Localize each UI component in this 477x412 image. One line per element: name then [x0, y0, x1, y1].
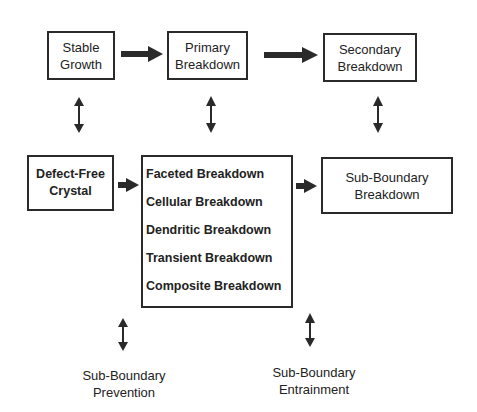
node-label-line: Stable	[63, 39, 100, 56]
double-arrow-prevention	[118, 318, 128, 351]
breakdown-type-transient: Transient Breakdown	[146, 250, 272, 267]
node-primary-breakdown: Primary Breakdown	[167, 31, 248, 80]
node-label-line: Crystal	[49, 183, 91, 200]
node-label-line: Sub-Boundary	[345, 169, 428, 186]
double-arrow-secondary-subboundary	[373, 96, 383, 133]
node-label-line: Breakdown	[175, 56, 240, 73]
node-label-line: Prevention	[68, 384, 180, 401]
node-label-line: Breakdown	[354, 186, 419, 203]
breakdown-type-dendritic: Dendritic Breakdown	[146, 222, 271, 239]
node-label-line: Entrainment	[264, 381, 364, 398]
node-sub-boundary-entrainment: Sub-Boundary Entrainment	[264, 364, 364, 398]
bold-right-arrow-defect-to-breakdowns	[118, 178, 139, 192]
node-defect-free-crystal: Defect-Free Crystal	[27, 155, 114, 211]
breakdown-type-cellular: Cellular Breakdown	[146, 194, 263, 211]
node-label-line: Primary	[185, 39, 230, 56]
double-arrow-primary-breakdowns	[206, 96, 216, 133]
node-label-line: Sub-Boundary	[68, 367, 180, 384]
node-label-line: Sub-Boundary	[264, 364, 364, 381]
breakdown-type-faceted: Faceted Breakdown	[146, 166, 264, 183]
node-stable-growth: Stable Growth	[47, 31, 115, 80]
bold-right-arrow-breakdowns-to-subboundary	[296, 179, 317, 193]
node-label-line: Secondary	[339, 41, 401, 58]
node-secondary-breakdown: Secondary Breakdown	[323, 33, 417, 82]
bold-right-arrow-stable-to-primary	[121, 46, 163, 62]
double-arrow-entrainment	[305, 313, 315, 347]
node-label-line: Defect-Free	[36, 166, 105, 183]
node-breakdown-types: Faceted Breakdown Cellular Breakdown Den…	[141, 155, 293, 308]
node-sub-boundary-breakdown: Sub-Boundary Breakdown	[321, 157, 453, 214]
double-arrow-stable-defect	[74, 97, 84, 133]
node-sub-boundary-prevention: Sub-Boundary Prevention	[68, 367, 180, 401]
breakdown-type-composite: Composite Breakdown	[146, 278, 281, 295]
node-label-line: Growth	[60, 56, 102, 73]
node-label-line: Breakdown	[337, 58, 402, 75]
bold-right-arrow-primary-to-secondary	[264, 47, 318, 63]
